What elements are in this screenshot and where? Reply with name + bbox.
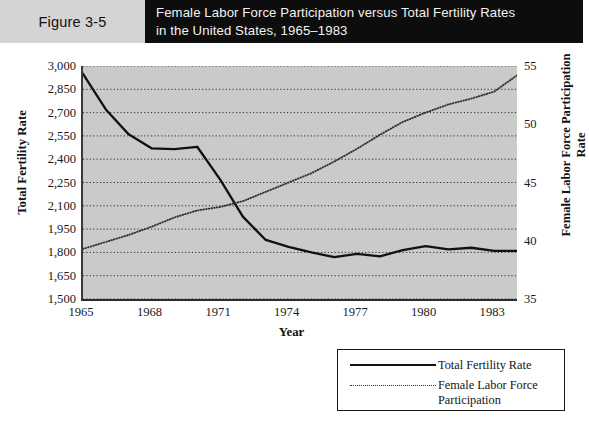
legend-item-female-labor-force-participation: Female Labor Force Participation: [348, 378, 558, 407]
x-axis-tick-label: 1968: [122, 305, 178, 320]
figure-header: Figure 3-5 Female Labor Force Participat…: [0, 0, 583, 43]
figure-title-band: Female Labor Force Participation versus …: [145, 0, 583, 43]
legend-label: Total Fertility Rate: [438, 358, 531, 373]
y-axis-right-ticks: 3540455055: [524, 66, 558, 299]
y-axis-left-tick-label: 2,700: [14, 105, 76, 120]
x-axis-tick-label: 1983: [464, 305, 520, 320]
x-axis-tick-label: 1977: [327, 305, 383, 320]
figure-title-line-2: in the United States, 1965–1983: [156, 22, 583, 39]
y-axis-left-tick-label: 1,650: [14, 268, 76, 283]
chart-container: Total Fertility Rate Female Labor Force …: [0, 43, 583, 424]
x-axis-tick-label: 1971: [190, 305, 246, 320]
y-axis-right-tick-label: 40: [524, 233, 554, 248]
legend-label: Female Labor Force Participation: [438, 378, 558, 407]
legend-solid-line-icon: [348, 358, 438, 372]
y-axis-right-tick-label: 50: [524, 117, 554, 132]
x-axis-ticks: 1965196819711974197719801983: [0, 305, 583, 323]
y-axis-left-tick-label: 1,950: [14, 222, 76, 237]
gridlines: [83, 66, 517, 299]
figure-title-line-1: Female Labor Force Participation versus …: [156, 4, 583, 21]
legend-item-total-fertility-rate: Total Fertility Rate: [348, 358, 531, 373]
figure-number-label: Figure 3-5: [0, 0, 145, 43]
y-axis-left-tick-label: 1,800: [14, 245, 76, 260]
y-axis-right-title: Female Labor Force Participation Rate: [559, 45, 589, 245]
x-axis-title: Year: [0, 325, 583, 340]
x-axis-tick-label: 1974: [259, 305, 315, 320]
y-axis-left-tick-label: 3,000: [14, 59, 76, 74]
y-axis-right-tick-label: 55: [524, 59, 554, 74]
plot-area: [81, 66, 517, 301]
y-axis-left-tick-label: 2,850: [14, 82, 76, 97]
y-axis-left-tick-label: 2,550: [14, 128, 76, 143]
y-axis-right-tick-label: 45: [524, 175, 554, 190]
x-axis-tick-label: 1965: [53, 305, 109, 320]
plot-svg: [83, 66, 517, 299]
y-axis-left-tick-label: 2,250: [14, 175, 76, 190]
y-axis-left-tick-label: 2,400: [14, 152, 76, 167]
chart-legend: Total Fertility Rate Female Labor Force …: [337, 349, 565, 411]
series-line-2: [83, 75, 517, 249]
legend-dotted-line-icon: [348, 378, 438, 392]
y-axis-left-tick-label: 2,100: [14, 198, 76, 213]
x-axis-tick-label: 1980: [396, 305, 452, 320]
y-axis-left-ticks: 1,5001,6501,8001,9502,1002,2502,4002,550…: [8, 66, 76, 299]
